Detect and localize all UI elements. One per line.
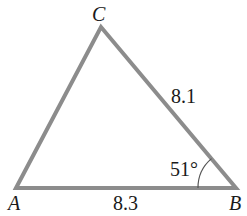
angle-label-b: 51°: [170, 159, 198, 179]
vertex-label-c: C: [92, 4, 105, 24]
angle-b-arc: [198, 159, 212, 188]
vertex-label-b: B: [229, 193, 241, 213]
triangle-abc: [16, 27, 236, 188]
side-label-bc: 8.1: [171, 86, 196, 106]
vertex-label-a: A: [8, 193, 20, 213]
side-label-ab: 8.3: [113, 193, 138, 213]
triangle-figure: [0, 0, 247, 216]
